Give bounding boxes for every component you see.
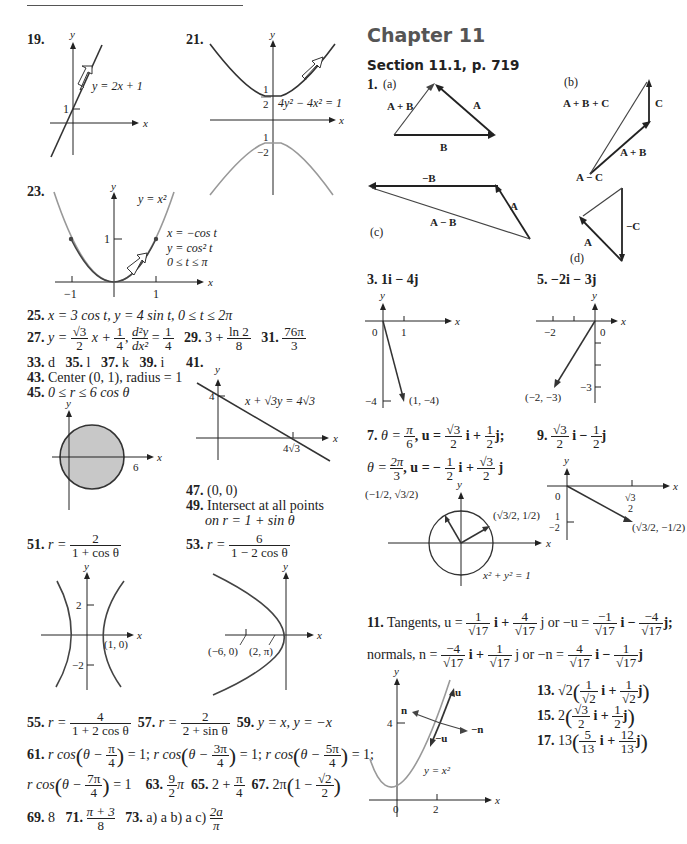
svg-text:n: n	[401, 704, 407, 716]
problem-11-graph: y x 4 2 0 u −u n −n y = x²	[360, 672, 510, 822]
answer-53: 53. r = 61 − 2 cos θ	[186, 532, 290, 559]
svg-text:2: 2	[263, 98, 269, 110]
svg-text:x: x	[338, 114, 344, 126]
answer-17: 17. 13(513 i + 1213j)	[537, 728, 648, 755]
svg-text:−4: −4	[365, 395, 377, 407]
problem-21-graph: y x 1 2 4y² − 4x² = 1 1 −2	[205, 30, 345, 200]
svg-text:(−6, 0): (−6, 0)	[208, 645, 238, 658]
problem-19-number: 19.	[27, 32, 45, 48]
answer-45: 45. 0 ≤ r ≤ 6 cos θ	[27, 385, 129, 401]
svg-text:y = x²: y = x²	[423, 764, 451, 776]
svg-text:1: 1	[263, 131, 269, 143]
svg-text:2: 2	[76, 599, 82, 611]
problem-19-graph: y x 1 y = 2x + 1	[45, 30, 155, 160]
problem-5-graph: y x 0 −2 −3 (−2, −3)	[520, 295, 660, 410]
svg-text:(d): (d)	[570, 251, 584, 265]
answer-25: 25. x = 3 cos t, y = 4 sin t, 0 ≤ t ≤ 2π	[27, 308, 232, 324]
problem-53-graph: y x (−6, 0) (2, π)	[205, 562, 335, 692]
svg-text:x: x	[672, 480, 678, 492]
svg-text:4√3: 4√3	[283, 442, 301, 454]
svg-text:(1, −4): (1, −4)	[409, 394, 439, 407]
svg-text:A: A	[473, 99, 481, 111]
svg-text:x: x	[454, 315, 460, 327]
svg-text:0: 0	[555, 490, 561, 502]
svg-text:1: 1	[401, 326, 407, 338]
svg-text:(c): (c)	[370, 225, 383, 239]
svg-text:−2: −2	[549, 522, 560, 533]
svg-text:√3: √3	[625, 492, 636, 503]
direction-arrow-icon	[127, 253, 147, 275]
svg-text:−n: −n	[471, 723, 483, 735]
vector-figure-a: (a) A + B A B	[380, 75, 510, 155]
answer-3: 3. 1i − 4j	[367, 272, 419, 288]
svg-text:(2, π): (2, π)	[249, 645, 273, 658]
svg-text:1: 1	[555, 511, 560, 522]
svg-text:A − C: A − C	[576, 171, 603, 183]
svg-text:−B: −B	[422, 172, 436, 184]
answer-61-line1: 61. r cos(θ − π4) = 1; r cos(θ − 3π4) = …	[27, 742, 374, 769]
svg-text:−C: −C	[626, 220, 640, 232]
answer-11-line1: 11. Tangents, u = 1√17 i + 4√17 j or −u …	[367, 610, 673, 637]
svg-text:x: x	[332, 432, 338, 444]
svg-text:x: x	[156, 451, 162, 463]
svg-text:6: 6	[133, 461, 139, 473]
svg-text:0 ≤ t ≤ π: 0 ≤ t ≤ π	[167, 255, 209, 269]
answer-13: 13. √2(1√2 i + 1√2j)	[537, 678, 650, 705]
svg-text:y = x²: y = x²	[137, 192, 167, 206]
x-axis-arrow-icon	[132, 120, 139, 126]
svg-text:1: 1	[104, 232, 110, 246]
svg-text:y = 2x + 1: y = 2x + 1	[91, 79, 143, 93]
svg-text:y: y	[456, 478, 462, 490]
svg-text:x + √3y = 4√3: x + √3y = 4√3	[244, 394, 315, 408]
svg-text:y: y	[393, 665, 399, 677]
problem-9-graph: y x 0 √3 2 1 −2 (√3/2, −1/2)	[545, 460, 685, 550]
svg-text:A − B: A − B	[430, 216, 457, 228]
svg-text:y: y	[591, 289, 597, 301]
svg-text:(b): (b)	[564, 75, 578, 89]
answer-43: 43. Center (0, 1), radius = 1	[27, 370, 182, 386]
svg-text:x: x	[136, 629, 142, 641]
svg-text:(1, 0): (1, 0)	[104, 638, 128, 651]
svg-text:A + B + C: A + B + C	[563, 97, 609, 109]
direction-arrow-icon	[302, 57, 323, 80]
svg-text:(√3/2, 1/2): (√3/2, 1/2)	[493, 509, 540, 522]
section-title: Section 11.1, p. 719	[367, 57, 519, 73]
svg-text:y: y	[83, 560, 89, 572]
svg-text:(√3/2, −1/2): (√3/2, −1/2)	[632, 521, 686, 534]
svg-text:−3: −3	[580, 381, 592, 393]
svg-text:u: u	[455, 686, 461, 698]
svg-text:y: y	[563, 454, 569, 466]
svg-text:−2: −2	[257, 146, 269, 158]
svg-text:1: 1	[153, 287, 159, 301]
svg-text:y: y	[69, 28, 75, 40]
svg-text:4y² − 4x² = 1: 4y² − 4x² = 1	[278, 96, 342, 110]
answer-49-line2: on r = 1 + sin θ	[205, 513, 295, 529]
answers-69-71-73: 69. 8 71. π + 38 73. a) a b) a c) 2aπ	[27, 805, 223, 832]
svg-text:2: 2	[628, 503, 633, 514]
svg-text:A: A	[584, 236, 592, 248]
vector-figure-c: −B A A − B (c)	[360, 178, 560, 258]
svg-text:x: x	[142, 117, 148, 129]
chapter-title: Chapter 11	[367, 24, 485, 46]
svg-text:A + B: A + B	[387, 100, 414, 112]
svg-text:1: 1	[263, 83, 269, 95]
answers-55-57-59: 55. r = 41 + 2 cos θ 57. r = 22 + sin θ …	[27, 710, 332, 737]
svg-text:A: A	[510, 200, 518, 212]
problem-45-graph: y x 6	[45, 400, 175, 510]
svg-text:0: 0	[372, 326, 378, 338]
vector-figure-d: A − C A −C (d)	[570, 178, 670, 268]
svg-text:2: 2	[433, 803, 439, 815]
answer-11-line2: normals, n = −4√17 i + 1√17 j or −n = 4√…	[367, 642, 643, 669]
problem-23-number: 23.	[27, 184, 45, 200]
svg-text:y: y	[379, 289, 385, 301]
y-axis-arrow-icon	[70, 42, 76, 49]
problem-3-graph: y x 0 1 −4 (1, −4)	[365, 295, 485, 410]
svg-text:A + B: A + B	[620, 146, 647, 158]
svg-text:y = cos² t: y = cos² t	[166, 241, 213, 255]
answer-51: 51. r = 21 + cos θ	[27, 532, 121, 559]
svg-text:y: y	[214, 363, 220, 375]
svg-text:B: B	[440, 141, 448, 153]
svg-text:0: 0	[393, 803, 399, 815]
svg-text:4: 4	[209, 390, 215, 402]
direction-arrow-icon	[78, 66, 92, 90]
